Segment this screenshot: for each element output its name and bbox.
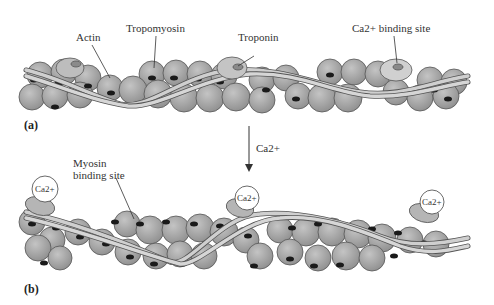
calcium-arrow [245,126,253,172]
ca-ion-label-3: Ca2+ [422,196,442,208]
thin-filament-diagram [0,0,494,305]
panel-a-tag: (a) [24,118,38,133]
label-tropomyosin: Tropomyosin [126,22,185,34]
label-ca-binding-site: Ca2+ binding site [352,22,430,34]
arrow-calcium-label: Ca2+ [256,142,280,154]
label-binding-site: binding site [73,169,125,181]
ca-ion-label-1: Ca2+ [35,183,55,195]
ca-ion-label-2: Ca2+ [237,192,257,204]
filament-a [19,36,468,113]
label-myosin: Myosin [73,157,107,169]
filament-b [19,176,468,271]
panel-b-tag: (b) [24,282,39,297]
label-troponin: Troponin [238,31,279,43]
label-actin: Actin [76,31,100,43]
